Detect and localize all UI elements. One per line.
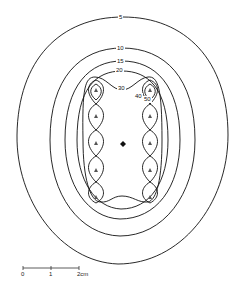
- contour-label-50: 50: [143, 96, 152, 103]
- contour-label-15: 15: [116, 58, 125, 65]
- contour-label-30: 30: [117, 85, 126, 92]
- contour-lines: [0, 0, 240, 293]
- scale-bar: [23, 266, 79, 270]
- contour-label-10: 10: [116, 45, 125, 52]
- contour-label-40: 40: [134, 93, 143, 100]
- contour-diagram: 5 10 15 20 30 40 50 0 1 2cm: [0, 0, 240, 293]
- scale-label-0: 0: [21, 271, 24, 278]
- scale-label-2cm: 2cm: [77, 271, 88, 278]
- scale-label-1: 1: [49, 271, 52, 278]
- contour-label-5: 5: [118, 14, 123, 21]
- center-marker-icon: [120, 141, 126, 147]
- contour-label-20: 20: [115, 67, 124, 74]
